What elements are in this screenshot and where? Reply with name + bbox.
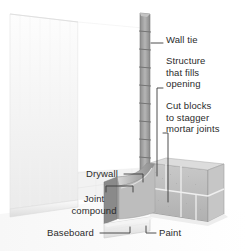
- left-drywall-wall: [10, 14, 78, 209]
- label-baseboard: Baseboard: [47, 227, 94, 239]
- diagram-canvas: Wall tie Structure that fills opening Cu…: [0, 0, 248, 251]
- wall-opening: [78, 22, 148, 172]
- label-drywall: Drywall: [86, 168, 118, 180]
- label-paint: Paint: [159, 227, 181, 239]
- label-cut-blocks: Cut blocks to stagger mortar joints: [166, 100, 220, 135]
- label-joint-compound: Joint compound: [55, 193, 133, 216]
- concrete-block-infill-wall: [150, 158, 228, 226]
- label-structure-fills-opening: Structure that fills opening: [166, 55, 205, 90]
- label-wall-tie: Wall tie: [166, 34, 198, 46]
